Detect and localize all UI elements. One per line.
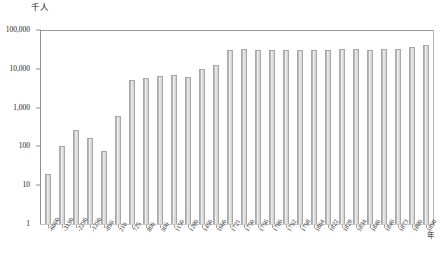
bar [199,69,206,224]
bar [157,76,164,224]
y-axis-unit-label: 千人 [31,2,50,12]
population-log-bar-chart: 千人 -6000-3190-2290-1290-8902107258009001… [0,0,443,266]
bar [311,50,318,224]
x-axis-unit-label: 年 [427,232,434,240]
bar [185,77,192,224]
x-axis: -6000-3190-2290-1290-8902107258009001150… [41,225,433,266]
y-axis-tick-label: 100 [19,142,30,150]
bar [395,49,402,224]
bar [353,49,360,224]
y-axis-tick-label: 100,000 [6,26,30,34]
y-axis-tick-mark [36,68,41,69]
bar [115,116,122,224]
bar [45,174,52,224]
bar [409,47,416,224]
bar [423,45,430,224]
y-axis-tick-label: 1 [26,220,30,228]
bar [143,78,150,224]
bar [87,138,94,224]
bar [129,80,136,224]
y-axis-tick-mark [36,146,41,147]
bar [269,50,276,224]
y-axis-tick-mark [36,107,41,108]
bar [367,50,374,224]
bar [255,50,262,224]
y-axis-tick-mark [36,185,41,186]
bars-container [41,30,433,224]
bar [241,49,248,224]
bar [325,50,332,224]
y-axis-tick-label: 10 [23,181,31,189]
bar [171,75,178,224]
y-axis-tick-label: 10,000 [9,65,30,73]
bar [73,130,80,224]
bar [101,151,108,224]
bar [297,50,304,224]
bar [283,50,290,224]
y-axis-tick-mark [36,30,41,31]
y-axis-tick-label: 1,000 [13,104,30,112]
bar [213,65,220,224]
bar [381,49,388,224]
bar [339,49,346,224]
bar [59,146,66,224]
bar [227,50,234,224]
